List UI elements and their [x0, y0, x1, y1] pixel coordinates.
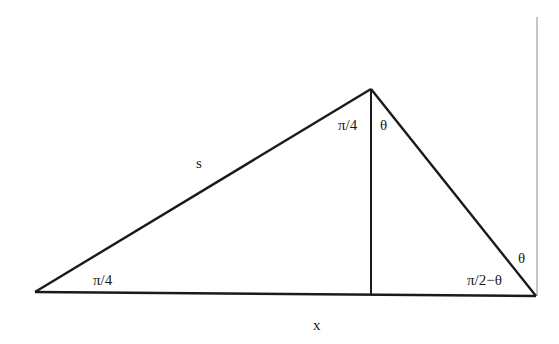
- base-line: [35, 292, 536, 296]
- label-right-upper-angle: θ: [518, 250, 525, 266]
- label-s: s: [196, 155, 202, 171]
- label-apex-right-angle: θ: [380, 117, 387, 133]
- triangle-diagram: s x π/4 π/4 θ θ π/2−θ: [0, 0, 559, 344]
- label-right-base-angle: π/2−θ: [467, 272, 502, 288]
- label-x: x: [313, 317, 321, 333]
- side-s-line: [35, 89, 371, 292]
- right-side-line: [371, 89, 536, 296]
- label-left-angle: π/4: [93, 272, 113, 288]
- label-apex-left-angle: π/4: [338, 117, 358, 133]
